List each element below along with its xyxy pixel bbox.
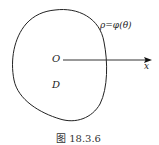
origin-label: O xyxy=(52,53,60,64)
curve-equation-label: ρ=φ(θ) xyxy=(100,20,132,30)
figure-caption: 图 18.3.6 xyxy=(56,130,101,145)
diagram-canvas xyxy=(0,0,159,145)
region-boundary-curve xyxy=(13,10,107,121)
region-label: D xyxy=(52,79,60,90)
axis-x-label: x xyxy=(144,61,149,71)
